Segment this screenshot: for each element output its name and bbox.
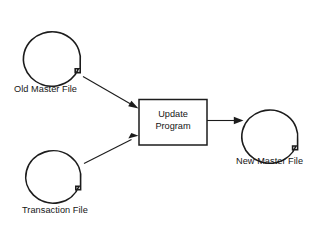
- new-master-file-label: New Master File: [236, 156, 303, 166]
- update-program-label-line-2: Program: [139, 120, 207, 132]
- update-to-new-master-arrowhead: [234, 117, 244, 124]
- old-master-file-tape-shape: [23, 32, 80, 86]
- transaction-to-update-arrowhead: [128, 133, 138, 139]
- old-master-to-update-arrowhead: [128, 101, 138, 109]
- transaction-file-tape-shape: [26, 151, 81, 203]
- old-master-to-update-line: [83, 77, 132, 105]
- transaction-file-label: Transaction File: [22, 205, 88, 215]
- old-master-file-label: Old Master File: [14, 84, 77, 94]
- transaction-to-update-line: [84, 140, 132, 164]
- update-program-label-line-1: Update: [139, 108, 207, 120]
- diagram-canvas: Old Master File Transaction File Update …: [0, 0, 329, 234]
